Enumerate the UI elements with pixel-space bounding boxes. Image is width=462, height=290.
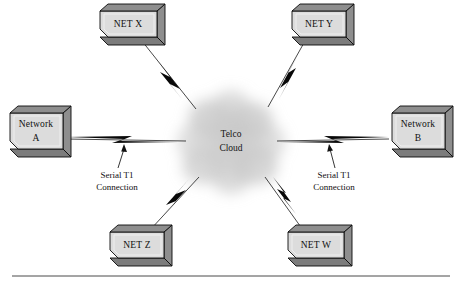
annotation-serial-t1-right: Serial T1 Connection: [313, 144, 355, 192]
telco-cloud-label-line1: Telco: [221, 129, 242, 139]
serial-t1-right-line1: Serial T1: [317, 170, 350, 180]
network-diagram-figure: NET X NET Y Network A N: [0, 0, 462, 290]
telco-cloud-label-line2: Cloud: [219, 143, 242, 153]
serial-t1-right-line2: Connection: [313, 182, 355, 192]
annotation-serial-t1-left: Serial T1 Connection: [96, 144, 138, 192]
telco-cloud-label: Telco Cloud: [219, 129, 242, 153]
serial-t1-left-line2: Connection: [96, 182, 138, 192]
text-layer: Telco Cloud Serial T1 Connection Serial …: [0, 0, 462, 290]
serial-t1-left-line1: Serial T1: [100, 170, 133, 180]
